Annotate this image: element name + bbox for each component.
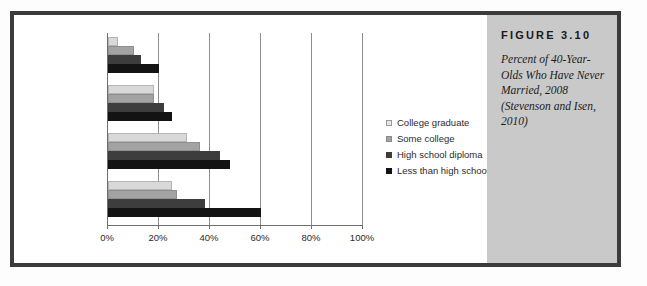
- x-tick-label: 80%: [301, 232, 320, 243]
- caption-panel: FIGURE 3.10 Percent of 40-Year-Olds Who …: [487, 15, 617, 263]
- figure-root: 0%20%40%60%80%100% White womenWhite menB…: [0, 0, 647, 286]
- bar: [108, 199, 205, 208]
- figure-caption-text: Percent of 40-Year-Olds Who Have Never M…: [501, 52, 607, 130]
- chart-area: 0%20%40%60%80%100% White womenWhite menB…: [14, 15, 495, 263]
- figure-number-label: FIGURE 3.10: [501, 29, 607, 41]
- bar: [108, 160, 230, 169]
- bar: [108, 190, 177, 199]
- legend-swatch-icon: [386, 136, 392, 142]
- bar: [108, 85, 154, 94]
- legend-item: College graduate: [386, 115, 489, 130]
- bar: [108, 37, 118, 46]
- bar: [108, 181, 172, 190]
- tick-mark: [107, 225, 108, 229]
- bar-group: [108, 181, 363, 217]
- legend-label: Less than high school: [397, 165, 489, 176]
- bar: [108, 151, 220, 160]
- bar: [108, 64, 159, 73]
- x-tick-label: 0%: [100, 232, 114, 243]
- x-axis-line: [107, 225, 363, 226]
- bar: [108, 142, 200, 151]
- bar: [108, 112, 172, 121]
- chart-legend: College graduateSome collegeHigh school …: [386, 115, 489, 179]
- tick-mark: [311, 225, 312, 229]
- x-tick-label: 40%: [199, 232, 218, 243]
- bar: [108, 133, 187, 142]
- bar-group: [108, 133, 363, 169]
- bar-group: [108, 37, 363, 73]
- legend-label: College graduate: [397, 117, 469, 128]
- tick-mark: [260, 225, 261, 229]
- legend-item: Some college: [386, 131, 489, 146]
- bar-chart-plot: 0%20%40%60%80%100% White womenWhite menB…: [107, 33, 362, 225]
- bar: [108, 94, 154, 103]
- legend-swatch-icon: [386, 168, 392, 174]
- legend-item: Less than high school: [386, 163, 489, 178]
- figure-frame: 0%20%40%60%80%100% White womenWhite menB…: [10, 11, 621, 267]
- x-tick-label: 100%: [350, 232, 374, 243]
- bar: [108, 208, 261, 217]
- legend-label: Some college: [397, 133, 455, 144]
- bar: [108, 55, 141, 64]
- bar: [108, 103, 164, 112]
- tick-mark: [158, 225, 159, 229]
- legend-label: High school diploma: [397, 149, 483, 160]
- tick-mark: [362, 225, 363, 229]
- legend-item: High school diploma: [386, 147, 489, 162]
- bar-group: [108, 85, 363, 121]
- x-tick-label: 20%: [148, 232, 167, 243]
- bar: [108, 46, 134, 55]
- x-tick-label: 60%: [250, 232, 269, 243]
- legend-swatch-icon: [386, 152, 392, 158]
- tick-mark: [209, 225, 210, 229]
- legend-swatch-icon: [386, 120, 392, 126]
